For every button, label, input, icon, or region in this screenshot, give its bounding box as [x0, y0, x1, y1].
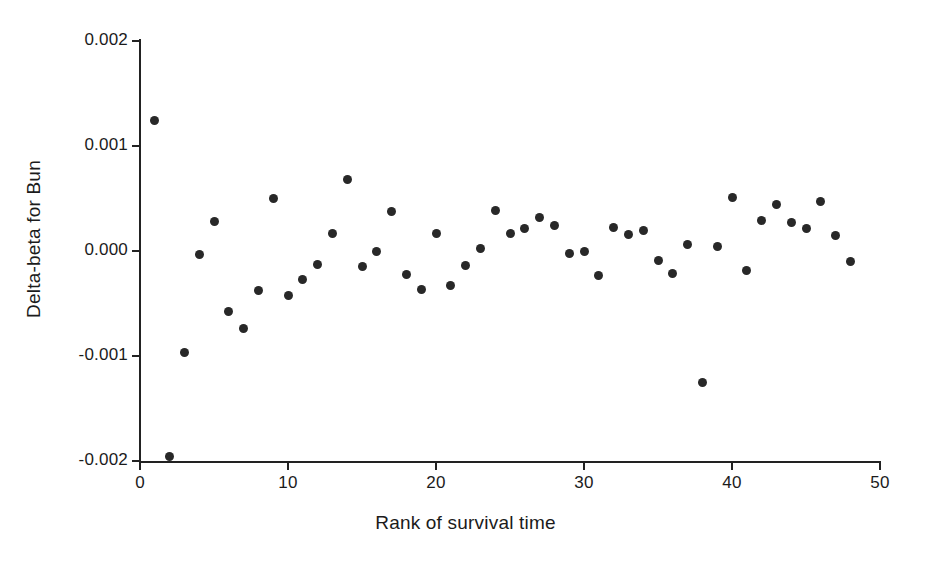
- scatter-point: [565, 249, 574, 258]
- y-axis-tick: [132, 145, 139, 147]
- x-axis-tick-label: 10: [258, 473, 318, 493]
- y-axis-tick: [132, 460, 139, 462]
- x-axis-tick: [435, 463, 437, 470]
- scatter-point: [757, 216, 766, 225]
- scatter-point: [654, 256, 663, 265]
- scatter-point: [313, 260, 322, 269]
- scatter-point: [520, 224, 529, 233]
- x-axis-tick-label: 20: [406, 473, 466, 493]
- scatter-point: [535, 213, 544, 222]
- x-axis-tick-label: 0: [110, 473, 170, 493]
- scatter-point: [846, 257, 855, 266]
- x-axis-tick-label: 30: [554, 473, 614, 493]
- scatter-point: [432, 229, 441, 238]
- scatter-plot-figure: 0.0020.0010.000-0.001-0.002 01020304050 …: [0, 0, 931, 565]
- x-axis-tick: [731, 463, 733, 470]
- y-axis-tick-label: 0.001: [84, 135, 128, 155]
- scatter-point: [180, 348, 189, 357]
- scatter-point: [358, 262, 367, 271]
- scatter-point: [461, 261, 470, 270]
- scatter-point: [594, 271, 603, 280]
- x-axis-tick: [583, 463, 585, 470]
- scatter-point: [165, 452, 174, 461]
- scatter-point: [713, 242, 722, 251]
- scatter-point: [446, 281, 455, 290]
- y-axis-tick-label: 0.000: [84, 240, 128, 260]
- x-axis-tick: [139, 463, 141, 470]
- scatter-point: [224, 307, 233, 316]
- x-axis-line: [139, 461, 881, 463]
- scatter-point: [343, 175, 352, 184]
- y-axis-title: Delta-beta for Bun: [23, 109, 45, 369]
- scatter-point: [816, 197, 825, 206]
- scatter-point: [609, 223, 618, 232]
- scatter-point: [195, 250, 204, 259]
- scatter-point: [387, 207, 396, 216]
- x-axis-tick-label: 40: [702, 473, 762, 493]
- scatter-point: [284, 291, 293, 300]
- y-axis-tick: [132, 40, 139, 42]
- scatter-point: [639, 226, 648, 235]
- scatter-point: [742, 266, 751, 275]
- scatter-point: [580, 247, 589, 256]
- scatter-point: [802, 224, 811, 233]
- scatter-point: [683, 240, 692, 249]
- scatter-point: [210, 217, 219, 226]
- scatter-point: [668, 269, 677, 278]
- scatter-point: [298, 275, 307, 284]
- scatter-point: [698, 378, 707, 387]
- scatter-point: [624, 230, 633, 239]
- scatter-point: [402, 270, 411, 279]
- x-axis-tick: [287, 463, 289, 470]
- x-axis-title: Rank of survival time: [0, 512, 931, 534]
- y-axis-tick: [132, 355, 139, 357]
- scatter-point: [150, 116, 159, 125]
- y-axis-tick-label: -0.001: [79, 345, 128, 365]
- scatter-point: [269, 194, 278, 203]
- scatter-point: [491, 206, 500, 215]
- y-axis-tick: [132, 250, 139, 252]
- scatter-point: [728, 193, 737, 202]
- scatter-point: [328, 229, 337, 238]
- scatter-point: [506, 229, 515, 238]
- scatter-point: [787, 218, 796, 227]
- scatter-point: [476, 244, 485, 253]
- x-axis-tick-label: 50: [850, 473, 910, 493]
- scatter-point: [772, 200, 781, 209]
- scatter-point: [550, 221, 559, 230]
- y-axis-tick-label: -0.002: [79, 450, 128, 470]
- scatter-point: [239, 324, 248, 333]
- scatter-point: [417, 285, 426, 294]
- scatter-point: [831, 231, 840, 240]
- scatter-point: [372, 247, 381, 256]
- plot-area: [140, 41, 880, 461]
- y-axis-tick-label: 0.002: [84, 30, 128, 50]
- scatter-point: [254, 286, 263, 295]
- x-axis-tick: [879, 463, 881, 470]
